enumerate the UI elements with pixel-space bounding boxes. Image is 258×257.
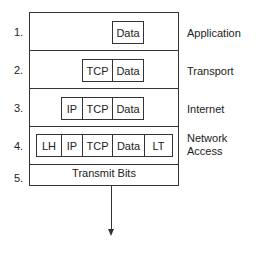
layer-divider <box>30 50 178 51</box>
data-cell: Data <box>112 134 145 157</box>
layer-label-transport: Transport <box>187 65 234 77</box>
tcp-header-cell: TCP <box>82 97 113 120</box>
ip-header-cell: IP <box>61 97 83 120</box>
layer-label-network: Network <box>187 132 227 144</box>
layer-label-internet: Internet <box>187 103 224 115</box>
data-cell: Data <box>112 97 144 120</box>
ip-header-cell: IP <box>61 134 83 157</box>
row-number-5: 5. <box>14 172 23 184</box>
layer-divider <box>30 126 178 127</box>
layer-divider <box>30 88 178 89</box>
down-arrow-icon <box>108 229 114 236</box>
tcp-header-cell: TCP <box>82 59 113 82</box>
layer-label-access: Access <box>187 145 222 157</box>
layer-label-application: Application <box>187 27 241 39</box>
transmit-bits-label: Transmit Bits <box>30 167 178 179</box>
row-number-1: 1. <box>14 26 23 38</box>
protocol-stack: Data TCP Data IP TCP Data LH IP TCP Data… <box>29 12 179 186</box>
row-number-3: 3. <box>14 102 23 114</box>
link-trailer-cell: LT <box>144 134 173 157</box>
data-cell: Data <box>112 59 144 82</box>
link-header-cell: LH <box>36 134 62 157</box>
data-cell: Data <box>112 21 144 44</box>
down-arrow-line <box>111 186 112 231</box>
row-number-4: 4. <box>14 140 23 152</box>
row-number-2: 2. <box>14 64 23 76</box>
tcp-header-cell: TCP <box>82 134 113 157</box>
layer-divider <box>30 164 178 165</box>
